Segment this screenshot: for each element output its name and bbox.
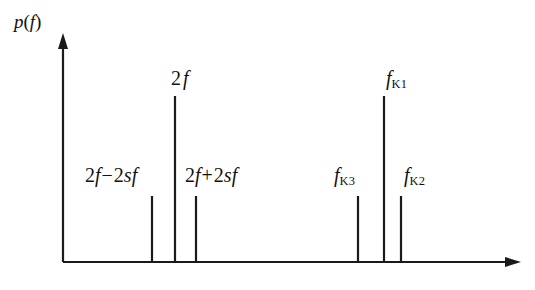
sideband-upper-coefficient-2: 2 [214,164,224,186]
sideband-lower-coefficient-2: 2 [114,164,124,186]
spectrum-figure: p(f) 2f−2sf 2f 2f+2sf fK3 fK1 fK2 [0,0,535,290]
fundamental-coefficient: 2 [171,67,181,89]
y-axis-arrowhead-icon [58,33,68,49]
y-axis-label-close-paren: ) [35,11,41,32]
peak-label-fundamental: 2f [171,68,189,88]
peak-label-sideband-upper: 2f+2sf [185,165,237,185]
peak-label-fk3: fK3 [334,165,355,188]
fk3-subscript: K3 [340,174,356,188]
y-axis-label-p: p [14,11,24,32]
sideband-lower-sf: sf [124,164,137,186]
fk1-subscript: K1 [392,77,408,91]
fundamental-f: f [181,67,189,89]
sideband-lower-coefficient: 2 [85,164,95,186]
sideband-upper-coefficient: 2 [185,164,195,186]
sideband-lower-minus-sign: − [101,164,114,186]
peak-label-fk1: fK1 [386,68,407,91]
fk2-subscript: K2 [410,174,426,188]
peak-label-sideband-lower: 2f−2sf [85,165,137,185]
peak-label-fk2: fK2 [404,165,425,188]
x-axis-arrowhead-icon [505,257,521,267]
sideband-upper-f: f [195,164,201,186]
spectrum-plot [0,0,535,290]
sideband-lower-f: f [95,164,101,186]
y-axis-label: p(f) [14,12,41,31]
sideband-upper-sf: sf [224,164,237,186]
sideband-upper-plus-sign: + [201,164,214,186]
